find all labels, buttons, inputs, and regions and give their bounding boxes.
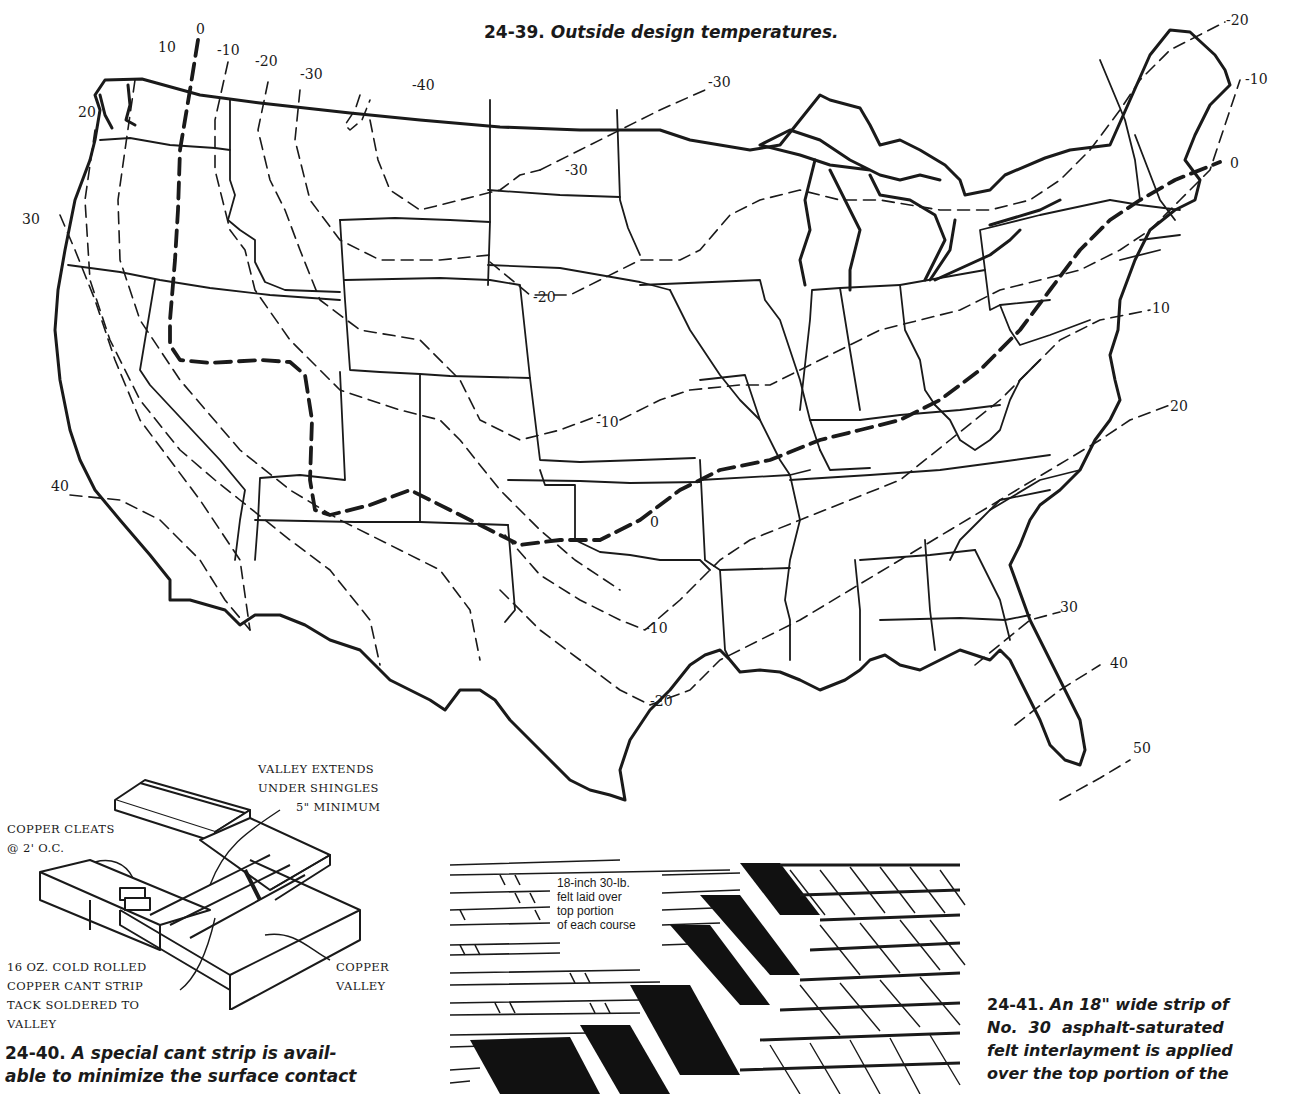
figure-24-40-caption: 24-40. A special cant strip is avail- ab… [5, 1042, 356, 1088]
callout-line: 5" MINIMUM [258, 798, 380, 817]
isotherm-label: -30 [300, 66, 323, 82]
isotherm-label: -10 [1245, 71, 1268, 87]
isotherm-label: -40 [412, 77, 435, 93]
isotherm-label: -10 [645, 620, 668, 636]
isotherm-label: 40 [1110, 655, 1128, 671]
callout-line: VALLEY EXTENDS [258, 760, 380, 779]
caption-line: An 18" wide strip of [1050, 995, 1229, 1014]
isotherm-label: -30 [708, 74, 731, 90]
callout-line: VALLEY [336, 977, 389, 996]
callout-line: COPPER CANT STRIP [7, 977, 147, 996]
callout-copper-cleats: COPPER CLEATS @ 2' O.C. [7, 820, 115, 858]
isotherm-label: 10 [158, 39, 176, 55]
shingle-felt-illustration [440, 855, 970, 1094]
callout-line: @ 2' O.C. [7, 839, 115, 858]
isotherm-label: 40 [51, 478, 69, 494]
callout-line: TACK SOLDERED TO [7, 996, 147, 1015]
caption-line: felt interlayment is applied [987, 1039, 1233, 1062]
callout-line: COPPER [336, 958, 389, 977]
felt-callout-label: 18-inch 30-lb. felt laid over top portio… [553, 874, 640, 934]
isotherm-labels: 0 10 -10 -20 -30 -40 20 -30 -30 30 -20 -… [22, 12, 1268, 756]
isotherm-label: 30 [1060, 599, 1078, 615]
isotherm-label: 0 [650, 514, 659, 530]
us-isotherm-map: 0 10 -10 -20 -30 -40 20 -30 -30 30 -20 -… [0, 0, 1301, 840]
callout-copper-valley: COPPER VALLEY [336, 958, 389, 996]
figure-24-41-caption: 24-41. An 18" wide strip of No. 30 aspha… [987, 993, 1233, 1085]
isotherm-label: -20 [255, 53, 278, 69]
isotherm-label: -20 [533, 289, 556, 305]
callout-line: 18-inch 30-lb. [557, 876, 636, 890]
figure-number: 24-41. [987, 995, 1044, 1014]
callout-line: felt laid over [557, 890, 636, 904]
callout-line: of each course [557, 918, 636, 932]
isotherm-label: 30 [22, 211, 40, 227]
isotherm-label: -10 [596, 414, 619, 430]
callout-valley-extends: VALLEY EXTENDS UNDER SHINGLES 5" MINIMUM [258, 760, 380, 817]
isotherm-label: 20 [1170, 398, 1188, 414]
caption-line: able to minimize the surface contact [5, 1065, 356, 1088]
isotherm-label: -20 [650, 693, 673, 709]
isotherm-label: 20 [78, 104, 96, 120]
figure-number: 24-40. [5, 1043, 66, 1063]
caption-line: No. 30 asphalt-saturated [987, 1016, 1233, 1039]
isotherm-label: 0 [196, 21, 205, 37]
isotherm-label: 0 [1230, 155, 1239, 171]
isotherm-label: 10 [1152, 300, 1170, 316]
isotherm-label: -30 [565, 162, 588, 178]
callout-line: 16 OZ. COLD ROLLED [7, 958, 147, 977]
caption-line: A special cant strip is avail- [72, 1043, 337, 1063]
isotherm-zero [170, 40, 1220, 545]
callout-line: VALLEY [7, 1015, 147, 1034]
callout-line: top portion [557, 904, 636, 918]
isotherm-label: 50 [1133, 740, 1151, 756]
callout-line: UNDER SHINGLES [258, 779, 380, 798]
callout-cant-strip: 16 OZ. COLD ROLLED COPPER CANT STRIP TAC… [7, 958, 147, 1034]
us-outline [55, 30, 1230, 800]
caption-line: over the top portion of the [987, 1062, 1233, 1085]
callout-line: COPPER CLEATS [7, 820, 115, 839]
isotherm-label: -10 [217, 42, 240, 58]
isotherm-label: -20 [1226, 12, 1249, 28]
